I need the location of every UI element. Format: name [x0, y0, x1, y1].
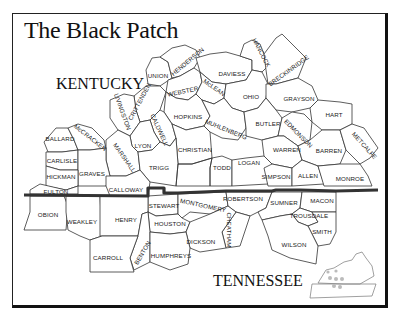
county-label-obion: OBION	[38, 211, 58, 218]
county-label-logan: LOGAN	[238, 159, 260, 166]
county-label-warren: WARREN	[273, 146, 301, 153]
county-label-trousdale: TROUSDALE	[290, 212, 329, 219]
state-label-tennessee: TENNESSEE	[213, 272, 303, 290]
county-label-henry: HENRY	[115, 216, 137, 223]
county-map: UNIONHENDERSONDAVIESSHANCOCKBRECKINRIDGE…	[0, 0, 398, 316]
county-label-todd: TODD	[213, 164, 231, 171]
map-title: The Black Patch	[24, 17, 178, 44]
county-label-ballard: BALLARD	[46, 135, 75, 142]
county-label-stewart: STEWART	[149, 202, 180, 209]
county-label-humphreys: HUMPHREYS	[151, 252, 191, 259]
county-label-smith: SMITH	[312, 228, 332, 235]
county-label-allen: ALLEN	[298, 172, 318, 179]
county-label-weakley: WEAKLEY	[67, 218, 98, 225]
county-label-macon: MACON	[310, 197, 334, 204]
county-label-ohio: OHIO	[243, 93, 259, 100]
county-label-butler: BUTLER	[255, 120, 280, 127]
county-label-hart: HART	[325, 111, 342, 118]
county-label-fulton: FULTON	[44, 188, 69, 195]
county-label-houston: HOUSTON	[154, 220, 186, 227]
county-label-dickson: DICKSON	[187, 238, 216, 245]
county-label-simpson: SIMPSON	[261, 173, 290, 180]
county-label-monroe: MONROE	[336, 175, 364, 182]
county-label-wilson: WILSON	[281, 241, 306, 248]
locator-inset-icon	[310, 252, 376, 298]
county-label-calloway: CALLOWAY	[109, 186, 144, 193]
county-label-trigg: TRIGG	[149, 164, 169, 171]
county-label-robertson: ROBERTSON	[223, 195, 263, 202]
county-label-hickman: HICKMAN	[46, 173, 75, 180]
county-label-sumner: SUMNER	[270, 199, 298, 206]
county-label-union: UNION	[148, 72, 168, 79]
county-label-grayson: GRAYSON	[283, 95, 314, 102]
county-label-cheatham: CHEATHAM	[226, 212, 233, 247]
county-label-graves: GRAVES	[79, 170, 105, 177]
county-label-hopkins: HOPKINS	[174, 113, 203, 120]
county-label-carroll: CARROLL	[93, 254, 123, 261]
county-label-lyon: LYON	[135, 142, 152, 149]
county-label-barren: BARREN	[316, 147, 342, 154]
county-label-christian: CHRISTIAN	[178, 146, 212, 153]
state-label-kentucky: KENTUCKY	[56, 75, 144, 93]
county-label-daviess: DAVIESS	[218, 70, 245, 77]
county-label-carlisle: CARLISLE	[47, 157, 78, 164]
